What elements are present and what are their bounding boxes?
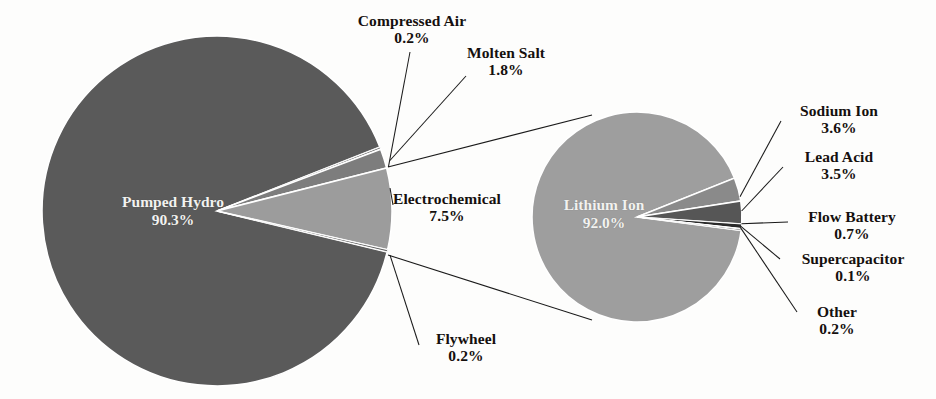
slice-label-pumped-hydro-category: Pumped Hydro — [92, 193, 254, 211]
slice-label-lead-acid-category: Lead Acid — [786, 148, 892, 165]
slice-label-other-percent: 0.2% — [800, 320, 874, 337]
slice-label-compressed-air-category: Compressed Air — [348, 12, 476, 29]
slice-label-lithium-ion-category: Lithium Ion — [536, 196, 672, 214]
slice-label-pumped-hydro: Pumped Hydro 90.3% — [92, 193, 254, 228]
slice-label-sodium-ion-percent: 3.6% — [784, 119, 894, 136]
slice-label-molten-salt: Molten Salt 1.8% — [448, 44, 564, 79]
slice-label-supercapacitor-category: Supercapacitor — [782, 250, 924, 267]
slice-label-flow-battery: Flow Battery 0.7% — [790, 208, 914, 243]
slice-label-compressed-air: Compressed Air 0.2% — [348, 12, 476, 47]
slice-label-lithium-ion-percent: 92.0% — [536, 214, 672, 232]
slice-label-sodium-ion-category: Sodium Ion — [784, 102, 894, 119]
pie-of-pie-chart: Pumped Hydro 90.3% Compressed Air 0.2% M… — [0, 0, 936, 399]
slice-label-sodium-ion: Sodium Ion 3.6% — [784, 102, 894, 137]
slice-label-lead-acid-percent: 3.5% — [786, 165, 892, 182]
slice-label-electrochemical: Electrochemical 7.5% — [378, 190, 516, 225]
slice-label-flow-battery-category: Flow Battery — [790, 208, 914, 225]
slice-label-lead-acid: Lead Acid 3.5% — [786, 148, 892, 183]
leader-flow-battery — [742, 222, 789, 224]
slice-label-flywheel-category: Flywheel — [414, 330, 518, 347]
leader-molten-salt — [390, 76, 466, 161]
leader-lead-acid — [742, 167, 783, 211]
slice-label-molten-salt-percent: 1.8% — [448, 61, 564, 78]
slice-label-lithium-ion: Lithium Ion 92.0% — [536, 196, 672, 231]
leader-supercapacitor — [741, 226, 780, 259]
slice-label-other-category: Other — [800, 303, 874, 320]
slice-label-flow-battery-percent: 0.7% — [790, 225, 914, 242]
leader-sodium-ion — [740, 121, 781, 197]
slice-label-supercapacitor: Supercapacitor 0.1% — [782, 250, 924, 285]
slice-label-supercapacitor-percent: 0.1% — [782, 267, 924, 284]
slice-label-other: Other 0.2% — [800, 303, 874, 338]
slice-label-molten-salt-category: Molten Salt — [448, 44, 564, 61]
slice-label-electrochemical-category: Electrochemical — [378, 190, 516, 207]
slice-label-flywheel-percent: 0.2% — [414, 347, 518, 364]
slice-label-pumped-hydro-percent: 90.3% — [92, 211, 254, 229]
slice-label-flywheel: Flywheel 0.2% — [414, 330, 518, 365]
slice-label-electrochemical-percent: 7.5% — [378, 207, 516, 224]
